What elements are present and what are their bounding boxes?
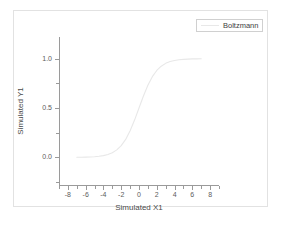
x-tick-major <box>210 186 211 190</box>
x-tick-minor <box>166 186 167 189</box>
y-tick-minor <box>56 83 59 84</box>
x-tick-minor <box>219 186 220 189</box>
series-line-boltzmann <box>77 59 201 157</box>
x-tick-major <box>139 186 140 190</box>
plot-area <box>59 37 219 185</box>
x-tick-label: 8 <box>200 191 220 199</box>
legend-label-boltzmann: Boltzmann <box>223 21 258 30</box>
x-tick-major <box>103 186 104 190</box>
y-tick-major <box>55 59 59 60</box>
x-tick-minor <box>148 186 149 189</box>
x-tick-major <box>68 186 69 190</box>
x-tick-major <box>121 186 122 190</box>
y-axis-title: Simulated Y1 <box>16 87 25 134</box>
x-tick-major <box>175 186 176 190</box>
y-axis-line <box>59 37 60 185</box>
y-tick-major <box>55 108 59 109</box>
y-axis-title-container: Simulated Y1 <box>14 37 26 185</box>
x-tick-minor <box>77 186 78 189</box>
x-tick-minor <box>183 186 184 189</box>
x-axis-title: Simulated X1 <box>59 203 219 212</box>
x-tick-minor <box>201 186 202 189</box>
y-tick-label: 1.0 <box>26 55 52 63</box>
y-tick-label: 0.5 <box>26 104 52 112</box>
y-tick-label: 0.0 <box>26 153 52 161</box>
x-tick-minor <box>95 186 96 189</box>
x-tick-minor <box>112 186 113 189</box>
chart-figure: 0.00.51.0-8-6-4-202468 Simulated Y1 Simu… <box>0 0 282 227</box>
x-tick-minor <box>130 186 131 189</box>
y-tick-minor <box>56 133 59 134</box>
x-tick-major <box>86 186 87 190</box>
x-tick-major <box>157 186 158 190</box>
x-tick-major <box>192 186 193 190</box>
x-tick-minor <box>59 186 60 189</box>
legend[interactable]: Boltzmann <box>196 19 263 32</box>
y-tick-minor <box>56 182 59 183</box>
legend-swatch-boltzmann <box>201 25 219 26</box>
boltzmann-curve-svg <box>59 37 219 185</box>
y-tick-major <box>55 157 59 158</box>
